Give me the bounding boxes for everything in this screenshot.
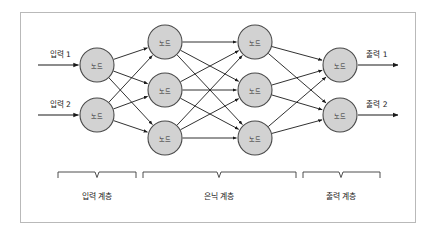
connection-edge xyxy=(268,77,326,127)
network-node: 노드 xyxy=(80,48,114,82)
connection-edge xyxy=(272,47,322,61)
node-label: 노드 xyxy=(159,39,171,46)
network-node: 노드 xyxy=(323,48,357,82)
connection-edge xyxy=(113,96,147,109)
layer-label: 출력 계층 xyxy=(326,191,356,201)
network-node: 노드 xyxy=(238,25,272,59)
edges-group xyxy=(109,42,326,138)
node-label: 노드 xyxy=(249,39,261,46)
input-label: 입력 1 xyxy=(50,50,71,59)
network-node: 노드 xyxy=(323,98,357,132)
node-label: 노드 xyxy=(159,87,171,94)
node-label: 노드 xyxy=(91,112,103,119)
node-label: 노드 xyxy=(334,62,346,69)
network-node: 노드 xyxy=(238,73,272,107)
diagram-canvas: 입력 1입력 2출력 1출력 2 노드노드노드노드노드노드노드노드노드노드 입력… xyxy=(0,0,440,240)
node-label: 노드 xyxy=(249,87,261,94)
connection-edge xyxy=(268,53,326,103)
output-label: 출력 2 xyxy=(366,99,387,109)
layer-label: 은닉 계층 xyxy=(204,191,234,201)
layer-brace xyxy=(58,172,136,178)
connection-edge xyxy=(109,56,152,103)
network-node: 노드 xyxy=(238,121,272,155)
connection-edge xyxy=(272,120,322,134)
connection-edge xyxy=(272,70,322,85)
network-node: 노드 xyxy=(148,121,182,155)
network-node: 노드 xyxy=(148,25,182,59)
node-label: 노드 xyxy=(334,112,346,119)
neural-network-diagram: 입력 1입력 2출력 1출력 2 노드노드노드노드노드노드노드노드노드노드 입력… xyxy=(0,0,440,240)
node-label: 노드 xyxy=(91,62,103,69)
layer-brace xyxy=(143,172,296,178)
network-node: 노드 xyxy=(148,73,182,107)
node-label: 노드 xyxy=(249,135,261,142)
connection-edge xyxy=(114,48,148,59)
input-label: 입력 2 xyxy=(50,100,71,109)
layer-brace xyxy=(303,172,380,178)
node-label: 노드 xyxy=(159,135,171,142)
layer-label: 입력 계층 xyxy=(82,191,112,201)
network-node: 노드 xyxy=(80,98,114,132)
connection-edge xyxy=(113,71,147,84)
output-label: 출력 1 xyxy=(366,49,387,59)
connection-edge xyxy=(114,121,148,132)
connection-edge xyxy=(109,78,152,125)
braces-group: 입력 계층은닉 계층출력 계층 xyxy=(58,172,380,201)
